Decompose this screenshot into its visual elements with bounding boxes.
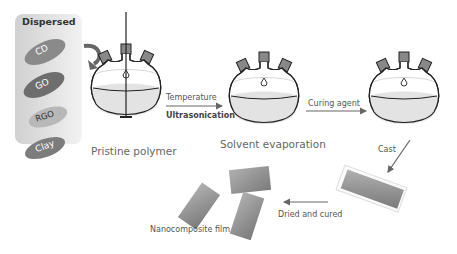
label-nanocomposite-film: Nanocomposite film <box>150 225 230 234</box>
film-piece-1 <box>229 166 271 194</box>
label-solvent-evaporation: Solvent evaporation <box>220 138 326 150</box>
film-piece-2 <box>178 182 220 229</box>
label-temperature: Temperature <box>166 93 217 102</box>
label-dried-and-cured: Dried and cured <box>278 210 342 219</box>
label-ultrasonication: Ultrasonication <box>166 111 235 120</box>
label-pristine-polymer: Pristine polymer <box>91 145 177 157</box>
cast-film <box>336 165 407 212</box>
panel-title: Dispersed <box>22 16 76 27</box>
process-diagram <box>0 0 457 254</box>
label-curing-agent: Curing agent <box>308 99 360 108</box>
label-cast: Cast <box>378 145 396 154</box>
film-piece-3 <box>230 192 265 241</box>
